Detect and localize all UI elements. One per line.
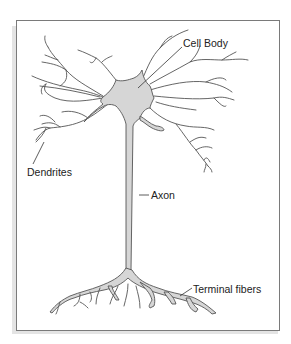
label-axon: Axon [151,189,175,201]
terminal-fibers-leader [180,288,192,296]
terminal-fibers-shape [50,268,216,314]
label-cell-body: Cell Body [183,37,228,49]
dendrites-leader [33,142,44,164]
label-dendrites: Dendrites [27,166,72,178]
cell-body-leader [138,47,182,88]
label-terminal-fibers: Terminal fibers [193,283,261,295]
cell-body-shape [84,70,164,270]
